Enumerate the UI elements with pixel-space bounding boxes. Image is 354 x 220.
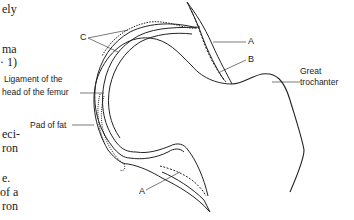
hip-joint-diagram (0, 0, 354, 220)
label-great: Great (300, 66, 321, 76)
label-c: C (80, 32, 87, 42)
label-trochanter: trochanter (300, 77, 338, 87)
label-pad-of-fat: Pad of fat (30, 120, 66, 130)
great-trochanter-outline (232, 74, 304, 192)
label-b: B (248, 54, 254, 64)
leader-a-bottom (146, 172, 180, 190)
capsule-outer-line (94, 2, 232, 212)
label-ligament-line2: head of the femur (2, 87, 69, 97)
leader-b (220, 60, 246, 72)
label-ligament-line1: Ligament of the (4, 74, 63, 84)
label-a-top: A (248, 36, 254, 46)
label-a-bottom: A (139, 186, 145, 196)
